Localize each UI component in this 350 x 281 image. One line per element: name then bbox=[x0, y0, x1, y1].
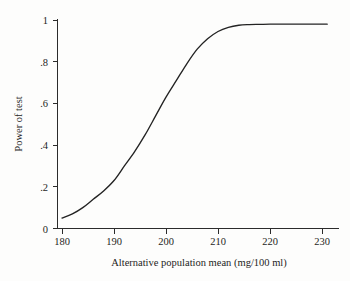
y-tick-label-1: 1 bbox=[43, 15, 48, 26]
x-tick-label-200: 200 bbox=[158, 236, 174, 247]
x-tick-label-230: 230 bbox=[314, 236, 330, 247]
power-curve-line bbox=[62, 24, 327, 218]
x-tick-label-210: 210 bbox=[210, 236, 226, 247]
x-axis-title: Alternative population mean (mg/100 ml) bbox=[111, 257, 287, 269]
y-tick-label-0.6: .6 bbox=[40, 98, 48, 109]
y-axis-title: Power of test bbox=[13, 96, 24, 151]
x-tick-label-190: 190 bbox=[106, 236, 122, 247]
x-tick-marks bbox=[62, 229, 322, 234]
power-curve-chart: 1 .8 .6 .4 .2 0 180 190 200 210 220 230 … bbox=[0, 0, 350, 281]
y-tick-label-0: 0 bbox=[43, 224, 48, 235]
x-tick-label-220: 220 bbox=[262, 236, 278, 247]
y-tick-label-0.4: .4 bbox=[40, 140, 49, 151]
y-tick-label-0.8: .8 bbox=[40, 57, 48, 68]
y-tick-label-0.2: .2 bbox=[40, 182, 48, 193]
x-tick-label-180: 180 bbox=[54, 236, 70, 247]
y-tick-marks bbox=[53, 20, 58, 229]
figure-container: 1 .8 .6 .4 .2 0 180 190 200 210 220 230 … bbox=[0, 0, 350, 281]
